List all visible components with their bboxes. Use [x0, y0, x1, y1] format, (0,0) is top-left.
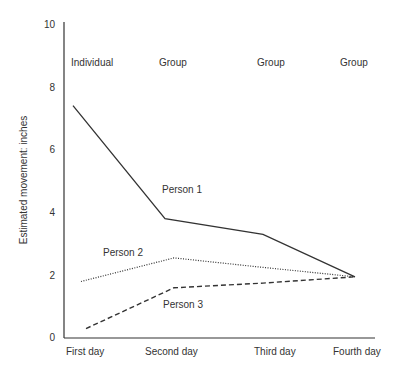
series-line-person-3 [86, 277, 355, 329]
y-tick-label: 8 [49, 82, 55, 93]
x-tick-label: Second day [145, 346, 198, 357]
condition-label: Group [340, 57, 368, 68]
series-label-person-2: Person 2 [103, 247, 143, 258]
y-tick-label: 2 [49, 270, 55, 281]
series-line-person-2 [81, 258, 355, 282]
y-axis-title: Estimated movement: inches [18, 116, 29, 244]
series-label-person-1: Person 1 [162, 184, 202, 195]
condition-label: Individual [71, 57, 113, 68]
y-tick-label: 6 [49, 144, 55, 155]
condition-label: Group [257, 57, 285, 68]
y-tick-label: 4 [49, 207, 55, 218]
x-tick-label: First day [66, 346, 104, 357]
y-tick-label: 10 [44, 19, 56, 30]
condition-label: Group [159, 57, 187, 68]
series-label-person-3: Person 3 [163, 299, 203, 310]
line-chart: 0 2 4 6 8 10 Estimated movement: inches … [0, 0, 396, 378]
y-tick-label: 0 [49, 332, 55, 343]
x-tick-label: Third day [254, 346, 296, 357]
x-tick-label: Fourth day [333, 346, 381, 357]
